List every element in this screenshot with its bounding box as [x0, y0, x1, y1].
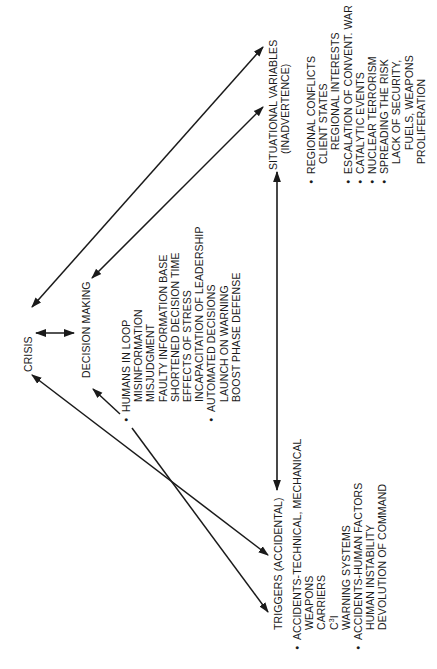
list-item: PROLIFERATION	[415, 5, 427, 174]
situational-label: SITUATIONAL VARIABLES	[267, 40, 279, 170]
decision-making-label: DECISION MAKING	[80, 281, 92, 378]
list-item: REGIONAL INTERESTS	[329, 5, 341, 174]
list-item: REGIONAL CONFLICTS	[305, 5, 317, 174]
list-item: MISJUDGMENT	[144, 227, 156, 413]
list-item: CATALYTIC EVENTS	[354, 5, 366, 174]
list-item: FUELS, WEAPONS	[403, 5, 415, 174]
arrow-decision-triggers	[132, 428, 268, 612]
list-item: WARNING SYSTEMS	[340, 439, 352, 640]
list-item: DEVOLUTION OF COMMAND	[376, 439, 388, 640]
list-item: AUTOMATED DECISIONS	[205, 227, 217, 413]
list-item: MISINFORMATION	[132, 227, 144, 413]
list-item: ESCALATION OF CONVENT. WAR	[342, 5, 354, 174]
situational-sublabel: (INADVERTENCE)	[279, 40, 291, 170]
list-item: NUCLEAR TERRORISM	[366, 5, 378, 174]
list-item: CARRIERS	[315, 439, 327, 640]
list-item: HUMAN INSTABILITY	[364, 439, 376, 640]
c3i-sup: 3	[327, 618, 334, 622]
list-item: HUMANS IN LOOP	[120, 227, 132, 413]
node-situational-title: SITUATIONAL VARIABLES (INADVERTENCE)	[267, 40, 291, 170]
list-item: ACCIDENTS-HUMAN FACTORS	[352, 439, 364, 640]
list-item: WEAPONS	[303, 439, 315, 640]
node-triggers-title: TRIGGERS (ACCIDENTAL)	[272, 497, 284, 630]
list-item: LAUNCH ON WARNING	[218, 227, 230, 413]
situational-list: REGIONAL CONFLICTS CLIENT STATES REGIONA…	[305, 5, 427, 174]
arrow-humans-decision	[93, 389, 120, 414]
list-item: ACCIDENTS-TECHNICAL, MECHANICAL	[291, 439, 303, 640]
triggers-label: TRIGGERS (ACCIDENTAL)	[272, 497, 284, 630]
list-item: CLIENT STATES	[317, 5, 329, 174]
c3i-suffix: I	[328, 615, 340, 618]
list-item: SHORTENED DECISION TIME	[169, 227, 181, 413]
list-item: FAULTY INFORMATION BASE	[157, 227, 169, 413]
node-crisis: CRISIS	[22, 336, 34, 372]
list-item: SPREADING THE RISK	[378, 5, 390, 174]
crisis-label: CRISIS	[22, 336, 34, 372]
decision-making-list: HUMANS IN LOOP MISINFORMATION MISJUDGMEN…	[120, 227, 242, 413]
triggers-list: ACCIDENTS-TECHNICAL, MECHANICAL WEAPONS …	[291, 439, 389, 640]
list-item: C3I	[328, 439, 340, 640]
list-item: LACK OF SECURITY,	[390, 5, 402, 174]
list-item: INCAPACITATION OF LEADERSHIP	[193, 227, 205, 413]
list-item: BOOST PHASE DEFENSE	[230, 227, 242, 413]
c3i-base: C	[328, 622, 340, 630]
list-item: EFFECTS OF STRESS	[181, 227, 193, 413]
node-decision-making-title: DECISION MAKING	[80, 281, 92, 378]
